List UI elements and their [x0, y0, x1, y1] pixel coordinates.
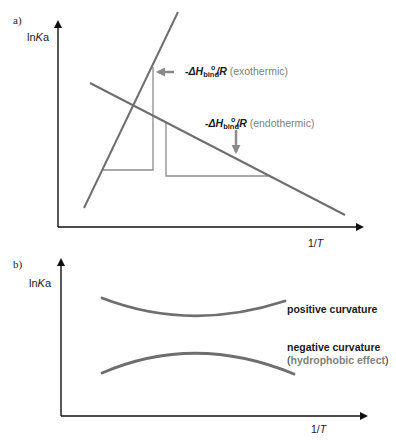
endothermic-line: [90, 83, 345, 215]
annotation-over-r: /R: [236, 117, 247, 129]
exothermic-note: (exothermic): [230, 65, 288, 77]
negative-curvature-label: negative curvature: [287, 341, 380, 353]
annotation-over-r: /R: [216, 65, 227, 77]
y-label-sub: a: [43, 31, 49, 43]
annotation-delta-h: ΔH: [209, 117, 224, 129]
y-label-var: K: [38, 277, 45, 289]
x-label-var: T: [320, 423, 326, 435]
y-label-prefix: ln: [29, 277, 38, 289]
hydrophobic-effect-note: (hydrophobic effect): [287, 354, 389, 366]
panel-b-axes: [61, 260, 366, 416]
x-label-prefix: 1/: [311, 423, 320, 435]
negative-curvature-curve: [102, 353, 294, 374]
y-label-prefix: ln: [27, 31, 36, 43]
panel-a-label: a): [13, 14, 22, 26]
annotation-superscript: o: [231, 116, 235, 123]
panel-b-label: b): [13, 258, 22, 270]
panel-b-y-axis-label: lnKa: [29, 277, 51, 289]
y-label-var: K: [36, 31, 43, 43]
positive-curvature-curve: [102, 298, 285, 316]
exothermic-annotation: -ΔHbindo/R (exothermic): [185, 64, 288, 79]
panel-a-y-axis-label: lnKa: [27, 31, 49, 43]
panel-b-x-axis-label: 1/T: [311, 423, 326, 435]
positive-curvature-label: positive curvature: [287, 303, 377, 315]
hydrophobic-effect-text: hydrophobic effect: [291, 354, 386, 366]
x-label-var: T: [317, 237, 323, 249]
x-label-prefix: 1/: [308, 237, 317, 249]
exothermic-line: [84, 12, 178, 208]
y-label-sub: a: [45, 277, 51, 289]
endothermic-annotation: -ΔHbindo/R (endothermic): [205, 116, 314, 131]
endothermic-note: (endothermic): [250, 117, 315, 129]
annotation-superscript: o: [211, 64, 215, 71]
panel-a-x-axis-label: 1/T: [308, 237, 323, 249]
annotation-delta-h: ΔH: [189, 65, 204, 77]
